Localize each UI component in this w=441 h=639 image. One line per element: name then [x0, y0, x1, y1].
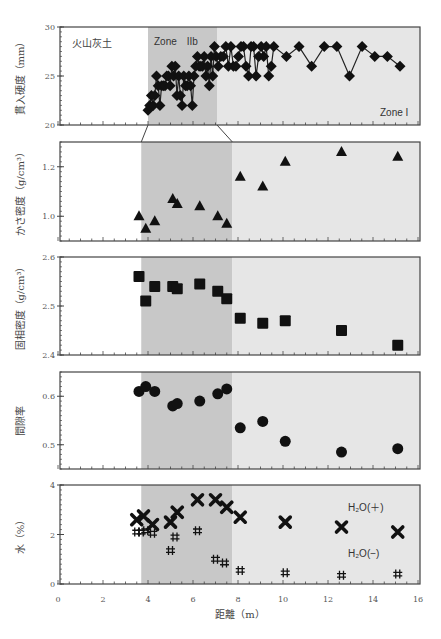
- y-tick-label: 30: [45, 23, 55, 32]
- x-tick-label: 8: [235, 595, 240, 604]
- circle-marker: [194, 396, 205, 407]
- y-tick-label: 2.5: [42, 302, 55, 311]
- square-marker: [221, 293, 232, 304]
- water-content-panel: 024水（%）: [15, 481, 420, 589]
- y-axis-label: 貫入硬度（mm）: [14, 37, 26, 116]
- y-axis-label: 固相密度（g/cm³）: [14, 262, 26, 351]
- x-tick-label: 4: [145, 595, 150, 604]
- zone-2b-label: Zone IIb: [154, 36, 198, 47]
- circle-marker: [149, 386, 160, 397]
- square-marker: [194, 278, 205, 289]
- square-marker: [134, 271, 145, 282]
- y-tick-label: 20: [45, 121, 55, 130]
- y-tick-label: 2.4: [42, 351, 55, 360]
- y-tick-label: 2.6: [42, 253, 55, 262]
- y-axis-label: 間隙率: [14, 406, 26, 436]
- zone-1-band: [232, 257, 420, 355]
- x-tick-label: 12: [323, 595, 333, 604]
- square-marker: [336, 325, 347, 336]
- y-tick-label: 0.5: [42, 441, 55, 450]
- circle-marker: [336, 447, 347, 458]
- y-tick-label: 1.2: [42, 163, 55, 172]
- square-marker: [235, 313, 246, 324]
- zone-2b-band: [141, 142, 232, 241]
- square-marker: [257, 318, 268, 329]
- circle-marker: [172, 398, 183, 409]
- y-axis-label: かさ密度（g/cm³）: [14, 147, 26, 236]
- circle-marker: [392, 443, 403, 454]
- x-tick-label: 0: [55, 595, 60, 604]
- square-marker: [280, 315, 291, 326]
- bulk-density-panel: 1.01.2かさ密度（g/cm³）: [14, 142, 420, 241]
- x-tick-label: 10: [278, 595, 288, 604]
- circle-marker: [221, 383, 232, 394]
- zone-1-band: [232, 142, 420, 241]
- x-tick-label: 16: [413, 595, 423, 604]
- y-tick-label: 2: [50, 531, 55, 540]
- solid-density-panel: 2.42.52.6固相密度（g/cm³）: [14, 253, 420, 360]
- y-tick-label: 1.0: [42, 212, 55, 221]
- x-tick-label: 6: [190, 595, 195, 604]
- porosity-panel: 0.50.6間隙率: [14, 372, 420, 469]
- zone-2b-band: [141, 257, 232, 355]
- y-tick-label: 0: [50, 580, 55, 589]
- square-marker: [140, 296, 151, 307]
- y-axis-label: 水（%）: [15, 515, 26, 555]
- x-tick-label: 2: [100, 595, 105, 604]
- figure: 202530貫入硬度（mm）1.01.2かさ密度（g/cm³）2.42.52.6…: [0, 0, 441, 639]
- square-marker: [392, 340, 403, 351]
- circle-marker: [235, 422, 246, 433]
- zone-1-label: Zone I: [380, 107, 408, 118]
- y-tick-label: 0.6: [42, 392, 55, 401]
- circle-marker: [280, 436, 291, 447]
- y-tick-label: 25: [45, 72, 55, 81]
- zone-1-band: [232, 485, 420, 584]
- y-tick-label: 4: [50, 481, 55, 490]
- x-tick-label: 14: [368, 595, 378, 604]
- h2o-minus-legend: H₂O(−): [348, 548, 379, 559]
- x-axis-label: 距離（m）: [215, 608, 264, 620]
- square-marker: [149, 281, 160, 292]
- zoom-connector-lines: [141, 125, 232, 142]
- square-marker: [172, 283, 183, 294]
- circle-marker: [257, 416, 268, 427]
- soil-type-label: 火山灰土: [72, 37, 112, 49]
- h2o-plus-legend: H₂O(＋): [348, 502, 384, 513]
